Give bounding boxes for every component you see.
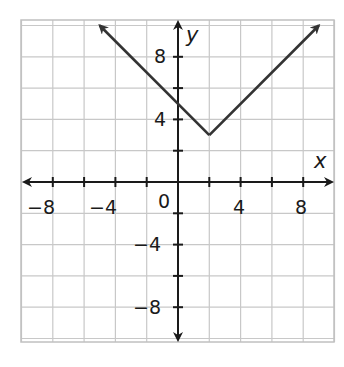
y-tick-label-4: 4	[154, 108, 166, 130]
coordinate-plane: y x 0 −8 −4 4 8 8 4 −4 −8	[0, 0, 344, 367]
axes	[24, 22, 332, 340]
x-tick-label-neg4: −4	[89, 196, 117, 218]
y-tick-label-8: 8	[154, 45, 166, 67]
x-tick-label-8: 8	[295, 196, 307, 218]
origin-label: 0	[158, 190, 170, 212]
x-tick-label-neg8: −8	[27, 196, 55, 218]
y-tick-label-neg8: −8	[133, 296, 161, 318]
x-axis-label: x	[313, 149, 327, 173]
x-tick-label-4: 4	[233, 196, 245, 218]
y-axis-label: y	[185, 23, 199, 47]
y-tick-label-neg4: −4	[133, 233, 161, 255]
